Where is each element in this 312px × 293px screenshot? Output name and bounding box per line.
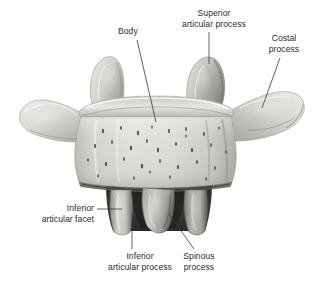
costal-process-left [20,100,82,142]
label-superior-articular-process-line1: Superior [172,8,256,19]
label-spinous-process: Spinous process [176,251,222,273]
label-costal-process-line1: Costal [262,33,306,44]
label-inferior-articular-facet: Inferior articular facet [14,203,94,225]
inferior-articular-process-left [110,190,132,235]
label-body: Body [118,26,138,37]
label-costal-process-line2: process [262,44,306,55]
label-inferior-articular-process-line1: Inferior [98,251,182,262]
label-body-line1: Body [118,26,138,37]
label-spinous-process-line2: process [176,262,222,273]
label-superior-articular-process: Superior articular process [172,8,256,30]
label-spinous-process-line1: Spinous [176,251,222,262]
label-superior-articular-process-line2: articular process [172,19,256,30]
label-inferior-articular-facet-line1: Inferior [14,203,94,214]
label-inferior-articular-facet-line2: articular facet [14,214,94,225]
costal-process-right [230,92,304,141]
label-inferior-articular-process-line2: articular process [98,262,182,273]
inferior-processes-group [110,188,207,235]
label-inferior-articular-process: Inferior articular process [98,251,182,273]
vertebral-body [75,117,236,192]
inferior-articular-facet [115,193,127,227]
label-costal-process: Costal process [262,33,306,55]
inferior-articular-process-right [184,190,207,235]
